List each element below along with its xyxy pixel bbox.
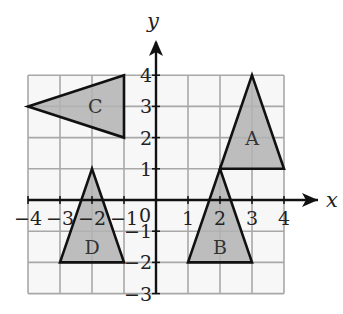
y-tick-label: −3 <box>124 283 152 305</box>
shape-label-a: A <box>244 127 259 149</box>
shape-label-b: B <box>213 236 227 258</box>
shape-label-d: D <box>84 236 99 258</box>
coordinate-plane: −4−3−2−112344321−1−2−30xy ABCD <box>0 0 343 314</box>
y-tick-label: 3 <box>140 95 152 117</box>
y-tick-label: −2 <box>124 251 152 273</box>
x-axis-label: x <box>326 188 338 212</box>
y-tick-label: 1 <box>140 158 152 180</box>
y-tick-label: 4 <box>140 64 152 86</box>
shape-label-c: C <box>88 95 103 117</box>
origin-label: 0 <box>139 204 151 226</box>
x-tick-label: 4 <box>278 207 290 229</box>
x-tick-label: 2 <box>214 207 226 229</box>
x-tick-label: 3 <box>246 207 258 229</box>
x-tick-label: −2 <box>78 207 106 229</box>
x-tick-label: −3 <box>46 207 74 229</box>
y-tick-label: 2 <box>140 127 152 149</box>
x-tick-label: −4 <box>14 207 42 229</box>
y-axis-label: y <box>146 9 160 33</box>
x-tick-label: 1 <box>182 207 194 229</box>
